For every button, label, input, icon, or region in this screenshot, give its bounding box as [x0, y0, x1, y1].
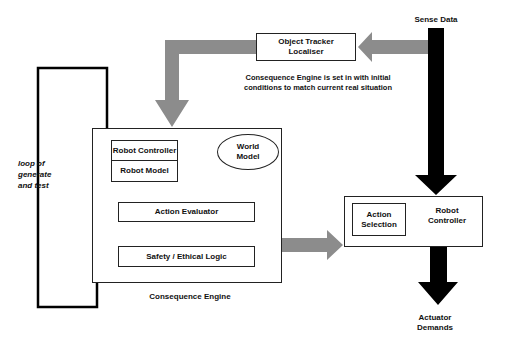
actuator-demands-line1: Actuator: [405, 313, 465, 323]
init-note-line1: Consequence Engine is set in with initia…: [228, 73, 408, 83]
actuator-demands-label: Actuator Demands: [405, 313, 465, 333]
init-note-line2: conditions to match current real situati…: [228, 83, 408, 93]
sense-to-tracker-arrow: [358, 32, 428, 62]
robot-controller-outer-label: Robot Controller: [417, 206, 477, 226]
world-model-line2: Model: [236, 152, 259, 162]
object-tracker-line1: Object Tracker: [278, 37, 334, 47]
action-selection-line1: Action: [367, 210, 392, 220]
robot-controller-box: Action Selection Robot Controller: [344, 196, 483, 247]
consequence-engine-label: Consequence Engine: [140, 292, 240, 302]
action-selection-box: Action Selection: [352, 203, 406, 236]
actuator-demands-line2: Demands: [405, 323, 465, 333]
actuator-arrow: [418, 247, 458, 305]
robot-controller-line1: Robot: [417, 206, 477, 216]
world-model-line1: World: [237, 142, 260, 152]
robot-controller-model-box: Robot Controller Robot Model: [111, 140, 178, 182]
loop-label: loop of generate and test: [18, 158, 51, 191]
world-model-ellipse: World Model: [217, 134, 279, 170]
action-selection-line2: Selection: [361, 220, 397, 230]
robot-controller-inner: Robot Controller: [112, 141, 177, 161]
loop-label-line2: generate: [18, 169, 51, 180]
robot-controller-line2: Controller: [417, 216, 477, 226]
sense-data-label: Sense Data: [404, 15, 468, 25]
robot-model: Robot Model: [112, 161, 177, 180]
action-evaluator-box: Action Evaluator: [118, 202, 255, 222]
object-tracker-line2: Localiser: [288, 47, 323, 57]
init-conditions-note: Consequence Engine is set in with initia…: [228, 73, 408, 93]
object-tracker-box: Object Tracker Localiser: [256, 33, 356, 61]
loop-label-line3: and test: [18, 180, 51, 191]
engine-to-controller-arrow: [281, 230, 343, 260]
safety-ethical-logic-box: Safety / Ethical Logic: [118, 246, 255, 267]
loop-label-line1: loop of: [18, 158, 51, 169]
